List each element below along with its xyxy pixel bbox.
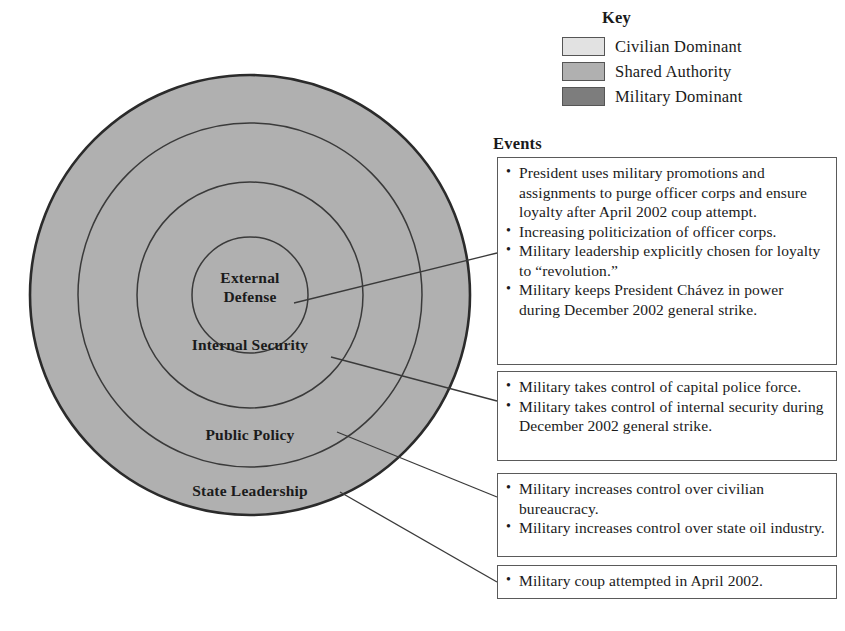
event-list-internal-security: Military takes control of capital police… xyxy=(504,377,828,436)
event-box-internal-security: Military takes control of capital police… xyxy=(497,371,837,461)
diagram-canvas: External Defense Internal Security Publi… xyxy=(0,0,845,631)
event-item: Military takes control of capital police… xyxy=(504,377,828,397)
key-swatch-shared-authority xyxy=(562,62,605,81)
key-item-military-dominant: Military Dominant xyxy=(562,84,842,109)
key-item-civilian-dominant: Civilian Dominant xyxy=(562,34,842,59)
key-legend: Key Civilian Dominant Shared Authority M… xyxy=(562,8,842,109)
ring-label-external-defense-line2: Defense xyxy=(223,288,276,305)
event-item: Military increases control over state oi… xyxy=(504,518,828,538)
event-item: Military coup attempted in April 2002. xyxy=(504,571,828,591)
event-box-external-defense: President uses military promotions and a… xyxy=(497,157,837,365)
event-item: Military increases control over civilian… xyxy=(504,479,828,518)
event-box-state-leadership: Military coup attempted in April 2002. xyxy=(497,565,837,599)
event-item: Military leadership explicitly chosen fo… xyxy=(504,241,828,280)
event-list-public-policy: Military increases control over civilian… xyxy=(504,479,828,538)
ring-label-external-defense: External Defense xyxy=(190,268,310,306)
ring-label-external-defense-line1: External xyxy=(220,269,279,286)
key-swatch-civilian-dominant xyxy=(562,37,605,56)
event-list-external-defense: President uses military promotions and a… xyxy=(504,163,828,319)
ring-label-public-policy: Public Policy xyxy=(205,425,294,444)
event-item: Increasing politicization of officer cor… xyxy=(504,222,828,242)
event-item: President uses military promotions and a… xyxy=(504,163,828,222)
key-label-military-dominant: Military Dominant xyxy=(615,87,743,106)
event-box-public-policy: Military increases control over civilian… xyxy=(497,473,837,557)
key-label-civilian-dominant: Civilian Dominant xyxy=(615,37,742,56)
event-list-state-leadership: Military coup attempted in April 2002. xyxy=(504,571,828,591)
ring-label-internal-security: Internal Security xyxy=(192,335,309,354)
key-title: Key xyxy=(602,8,842,28)
key-label-shared-authority: Shared Authority xyxy=(615,62,731,81)
ring-label-state-leadership: State Leadership xyxy=(192,481,308,500)
event-item: Military keeps President Chávez in power… xyxy=(504,280,828,319)
event-item: Military takes control of internal secur… xyxy=(504,397,828,436)
key-swatch-military-dominant xyxy=(562,87,605,106)
events-title: Events xyxy=(493,134,542,154)
key-item-shared-authority: Shared Authority xyxy=(562,59,842,84)
